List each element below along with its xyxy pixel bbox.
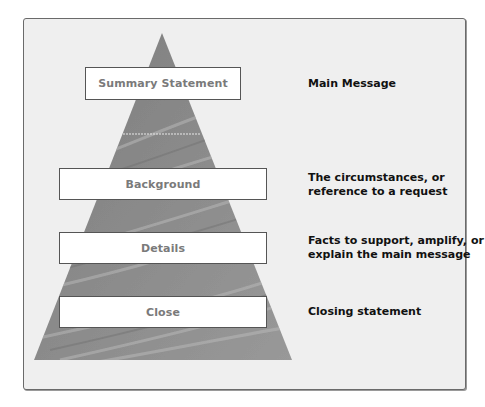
details-box: Details xyxy=(59,232,267,264)
summary-statement-box: Summary Statement xyxy=(85,67,241,100)
details-description-line-2: explain the main message xyxy=(308,248,484,262)
background-description: The circumstances, or reference to a req… xyxy=(308,171,447,199)
details-description-line-1: Facts to support, amplify, or xyxy=(308,234,484,248)
background-description-line-2: reference to a request xyxy=(308,185,447,199)
main-message-label: Main Message xyxy=(308,77,396,91)
close-box: Close xyxy=(59,296,267,328)
details-description: Facts to support, amplify, or explain th… xyxy=(308,234,484,262)
background-description-line-1: The circumstances, or xyxy=(308,171,447,185)
closing-statement-label: Closing statement xyxy=(308,305,421,319)
pyramid-shape xyxy=(0,0,485,407)
background-box: Background xyxy=(59,168,267,200)
